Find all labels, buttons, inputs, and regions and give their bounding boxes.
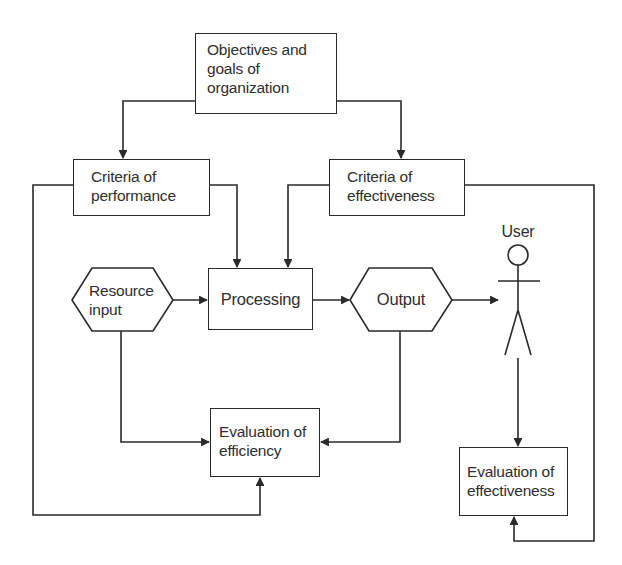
user-stick-figure-icon xyxy=(498,245,540,355)
eval-effectiveness-label: Evaluation of effectiveness xyxy=(467,462,567,500)
eval-efficiency-line-2: efficiency xyxy=(219,441,319,460)
eval-efficiency-label: Evaluation of efficiency xyxy=(219,422,319,460)
edge-objectives-to-criteria-effectiveness xyxy=(336,101,401,158)
resource-input-line-1: Resource xyxy=(89,281,169,300)
edge-criteria-effectiveness-to-processing xyxy=(288,185,329,267)
edge-objectives-to-criteria-performance xyxy=(123,101,195,158)
resource-input-line-2: input xyxy=(89,300,169,319)
objectives-line-2: goals of xyxy=(207,59,335,78)
resource-input-label: Resource input xyxy=(89,281,169,319)
output-label: Output xyxy=(350,290,452,309)
objectives-line-3: organization xyxy=(207,78,335,97)
eval-effectiveness-line-1: Evaluation of xyxy=(467,462,567,481)
processing-label: Processing xyxy=(208,290,313,309)
criteria-effectiveness-label: Criteria of effectiveness xyxy=(347,167,465,205)
criteria-performance-line-2: performance xyxy=(91,186,209,205)
objectives-line-1: Objectives and xyxy=(207,40,335,59)
edge-criteria-performance-to-processing xyxy=(210,185,237,267)
eval-efficiency-line-1: Evaluation of xyxy=(219,422,319,441)
edge-output-to-eval-efficiency xyxy=(321,330,400,442)
criteria-performance-line-1: Criteria of xyxy=(91,167,209,186)
criteria-effectiveness-line-1: Criteria of xyxy=(347,167,465,186)
criteria-performance-label: Criteria of performance xyxy=(91,167,209,205)
eval-effectiveness-line-2: effectiveness xyxy=(467,481,567,500)
edge-resource-to-eval-efficiency xyxy=(121,330,209,442)
objectives-label: Objectives and goals of organization xyxy=(207,40,335,97)
user-label: User xyxy=(493,222,543,241)
criteria-effectiveness-line-2: effectiveness xyxy=(347,186,465,205)
